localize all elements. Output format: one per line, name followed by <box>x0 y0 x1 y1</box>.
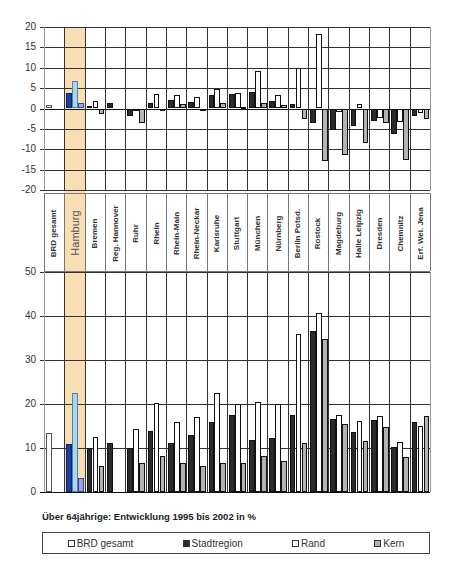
top-vgridline <box>389 27 390 190</box>
top-vgridline <box>369 27 370 190</box>
bottom-bar-kern <box>180 463 186 492</box>
chart-legend: BRD gesamt Stadtregion Rand Kern <box>42 532 430 554</box>
bottom-bar-rand <box>235 404 241 492</box>
category-label-magdeburg: Magdeburg <box>328 195 348 271</box>
bottom-bar-stadtregion <box>269 438 275 492</box>
bottom-bar-kern <box>302 443 308 492</box>
top-bar-rand <box>316 34 322 108</box>
top-gridline <box>40 170 430 171</box>
bottom-bar-stadtregion <box>188 435 194 492</box>
bottom-bar-kern <box>261 456 267 492</box>
bottom-vgridline <box>186 272 187 492</box>
top-bar-kern <box>180 104 186 108</box>
top-y-tick-label: 20 <box>0 21 36 32</box>
bottom-vgridline <box>308 272 309 492</box>
legend-item-kern: Kern <box>374 538 404 549</box>
category-label-erf-wei-jena: Erf. Wei. Jena <box>410 195 430 271</box>
chart-caption: Über 64jährige: Entwicklung 1995 bis 200… <box>42 511 256 522</box>
bottom-vgridline <box>85 272 86 492</box>
top-bar-stadtregion <box>290 104 296 108</box>
category-label-brd-gesamt: BRD gesamt <box>44 195 64 271</box>
category-label-bremen: Bremen <box>85 195 105 271</box>
top-bar-rand <box>214 89 220 109</box>
bottom-bar-kern <box>160 456 166 492</box>
top-bar-kern <box>220 103 226 109</box>
top-bar-rand <box>72 81 78 108</box>
top-gridline <box>40 88 430 89</box>
bottom-bar-stadtregion <box>351 432 357 492</box>
bottom-vgridline <box>410 272 411 492</box>
category-label-stuttgart: Stuttgart <box>227 195 247 271</box>
top-bar-rand <box>133 109 139 111</box>
legend-item-stadtregion: Stadtregion <box>183 538 243 549</box>
bottom-vgridline <box>328 272 329 492</box>
category-label-text: München <box>253 215 262 250</box>
category-label-berlin-potsd-: Berlin Potsd. <box>288 195 308 271</box>
bottom-vgridline <box>227 272 228 492</box>
top-bar-rand <box>275 95 281 109</box>
bottom-bar-rand <box>316 313 322 492</box>
top-bar-stadtregion <box>229 94 235 109</box>
legend-swatch-kern <box>374 540 381 547</box>
bottom-bar-rand <box>133 429 139 492</box>
top-vgridline <box>328 27 329 190</box>
top-bar-rand <box>255 71 261 108</box>
top-bar-rand <box>154 94 160 108</box>
category-label-text: Dresden <box>375 217 384 249</box>
top-vgridline <box>430 27 431 190</box>
top-bar-rand <box>93 101 99 109</box>
bottom-vgridline <box>267 272 268 492</box>
bottom-bar-rand <box>194 417 200 492</box>
category-label-karlsruhe: Karlsruhe <box>207 195 227 271</box>
top-vgridline <box>125 27 126 190</box>
bottom-bar-rand <box>174 422 180 492</box>
bottom-bar-stadtregion <box>249 440 255 492</box>
bottom-bar-kern <box>241 463 247 492</box>
category-label-text: Halle Leipzig <box>354 209 363 258</box>
top-bar-rand <box>296 68 302 108</box>
top-vgridline <box>44 27 45 190</box>
bottom-bar-stadtregion <box>66 444 72 492</box>
top-vgridline <box>267 27 268 190</box>
category-label-halle-leipzig: Halle Leipzig <box>349 195 369 271</box>
category-label-text: Rhein-Neckar <box>192 207 201 259</box>
bottom-bar-brd-gesamt <box>46 433 52 492</box>
bottom-bar-stadtregion <box>87 448 93 492</box>
top-bar-stadtregion <box>127 109 133 117</box>
category-label-rostock: Rostock <box>308 195 328 271</box>
bottom-y-tick-label: 50 <box>0 266 36 277</box>
bottom-gridline <box>40 360 430 361</box>
top-vgridline <box>105 27 106 190</box>
top-gridline <box>40 190 430 191</box>
top-bar-kern <box>424 109 430 120</box>
top-vgridline <box>227 27 228 190</box>
bottom-bar-stadtregion <box>290 415 296 492</box>
category-label-rhein-main: Rhein-Main <box>166 195 186 271</box>
top-bar-kern <box>342 109 348 155</box>
top-bar-kern <box>99 109 105 114</box>
top-gridline <box>40 149 430 150</box>
top-y-tick-label: 0 <box>0 103 36 114</box>
top-vgridline <box>85 27 86 190</box>
label-band-top <box>44 193 430 194</box>
bottom-y-tick-label: 40 <box>0 310 36 321</box>
bottom-bar-rand <box>357 421 363 492</box>
top-bar-stadtregion <box>351 109 357 126</box>
top-vgridline <box>247 27 248 190</box>
bottom-vgridline <box>166 272 167 492</box>
top-bar-kern <box>363 109 369 143</box>
top-bar-rand <box>357 104 363 109</box>
bottom-bar-stadtregion <box>412 422 418 492</box>
bottom-gridline <box>40 272 430 273</box>
top-bar-stadtregion <box>330 109 336 131</box>
category-label-text: Hamburg <box>68 210 80 255</box>
legend-label: BRD gesamt <box>77 538 134 549</box>
top-bar-kern <box>160 109 166 111</box>
bottom-bar-rand <box>275 404 281 492</box>
bottom-bar-kern <box>322 339 328 492</box>
top-vgridline <box>308 27 309 190</box>
legend-label: Kern <box>383 538 404 549</box>
top-bar-stadtregion <box>249 92 255 108</box>
top-bar-stadtregion <box>66 93 72 108</box>
bottom-bar-rand <box>72 393 78 492</box>
